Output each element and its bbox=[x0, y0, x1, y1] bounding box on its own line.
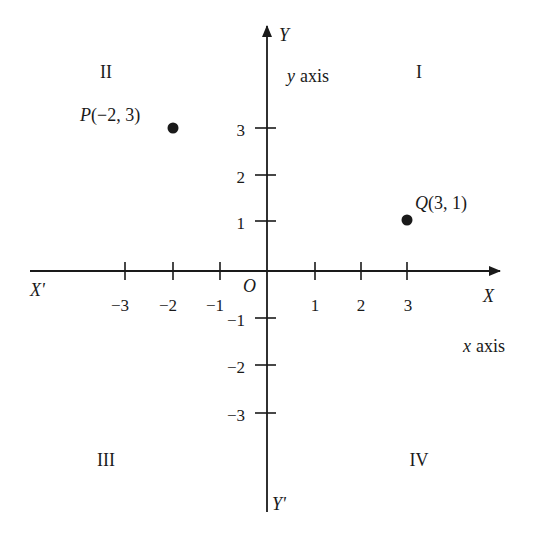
quadrant-iv-label: IV bbox=[410, 450, 429, 470]
x-tick-label: 3 bbox=[404, 296, 413, 315]
y-positive-label: Y bbox=[279, 25, 291, 45]
y-tick-label: 3 bbox=[237, 121, 246, 140]
quadrant-i-label: I bbox=[416, 62, 422, 82]
point-p-label: P(−2, 3) bbox=[79, 105, 140, 126]
x-tick-label: −3 bbox=[111, 296, 129, 315]
point-q-marker bbox=[402, 215, 413, 226]
point-p-marker bbox=[168, 123, 179, 134]
x-tick-label: −2 bbox=[159, 296, 177, 315]
x-tick-label: 2 bbox=[357, 296, 366, 315]
x-axis-name: xaxis bbox=[462, 336, 505, 356]
origin-label: O bbox=[243, 276, 256, 296]
y-tick-label: 2 bbox=[237, 168, 246, 187]
x-positive-label: X bbox=[482, 286, 495, 306]
x-tick-label: 1 bbox=[311, 296, 320, 315]
cartesian-plane-diagram: −3 −2 −1 1 2 3 3 2 1 −1 −2 −3 X X' Y Y' … bbox=[0, 0, 535, 549]
x-negative-label: X' bbox=[29, 280, 46, 300]
y-tick-labels: 3 2 1 −1 −2 −3 bbox=[227, 121, 245, 425]
y-tick-label: 1 bbox=[237, 214, 246, 233]
quadrant-labels: I II III IV bbox=[97, 62, 428, 470]
point-q-label: Q(3, 1) bbox=[415, 193, 467, 214]
y-tick-label: −1 bbox=[227, 311, 245, 330]
quadrant-iii-label: III bbox=[97, 450, 115, 470]
y-negative-label: Y' bbox=[272, 494, 287, 514]
y-tick-label: −3 bbox=[227, 406, 245, 425]
x-tick-labels: −3 −2 −1 1 2 3 bbox=[111, 296, 412, 315]
quadrant-ii-label: II bbox=[100, 62, 112, 82]
x-tick-label: −1 bbox=[206, 296, 224, 315]
y-tick-label: −2 bbox=[227, 358, 245, 377]
y-axis-name: yaxis bbox=[285, 66, 329, 86]
